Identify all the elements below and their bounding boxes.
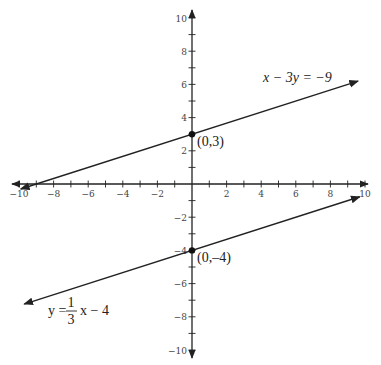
- x-tick-label: 6: [293, 189, 299, 199]
- y-tick-label: −8: [174, 312, 188, 322]
- equation-label-line2: y = 1 3 x − 4: [48, 295, 109, 327]
- eq2-numerator: 1: [68, 295, 75, 310]
- x-tick-label: 8: [328, 189, 334, 199]
- point-0-3: [189, 131, 195, 137]
- eq2-denominator: 3: [68, 312, 75, 327]
- x-axis-ticks: −10−8−6−4−2246810: [10, 181, 371, 200]
- x-tick-label: −4: [116, 189, 130, 199]
- y-tick-label: −2: [174, 213, 187, 223]
- point-0-neg4: [189, 247, 195, 253]
- x-tick-label: −8: [47, 189, 61, 199]
- y-tick-label: 2: [181, 146, 187, 156]
- y-tick-label: −10: [168, 346, 187, 356]
- equation-label-line1: x − 3y = −9: [262, 70, 332, 85]
- x-tick-label: 10: [359, 189, 371, 199]
- y-tick-label: 6: [181, 80, 187, 90]
- point-label-0-3: (0,3): [197, 134, 224, 150]
- eq2-prefix: y =: [48, 303, 67, 318]
- point-label-0-neg4: (0,–4): [197, 250, 231, 266]
- x-tick-label: 4: [258, 189, 264, 199]
- x-tick-label: −10: [10, 189, 29, 199]
- coordinate-plane: −10−8−6−4−2246810 108642−2−4−6−8−10 (0,3…: [0, 0, 381, 365]
- y-tick-label: 8: [181, 47, 187, 57]
- x-tick-label: −2: [151, 189, 164, 199]
- y-tick-label: 4: [181, 113, 187, 123]
- eq2-suffix: x − 4: [80, 303, 109, 318]
- x-tick-label: 2: [224, 189, 230, 199]
- x-tick-label: −6: [82, 189, 96, 199]
- y-tick-label: 10: [176, 14, 188, 24]
- y-tick-label: −6: [174, 279, 188, 289]
